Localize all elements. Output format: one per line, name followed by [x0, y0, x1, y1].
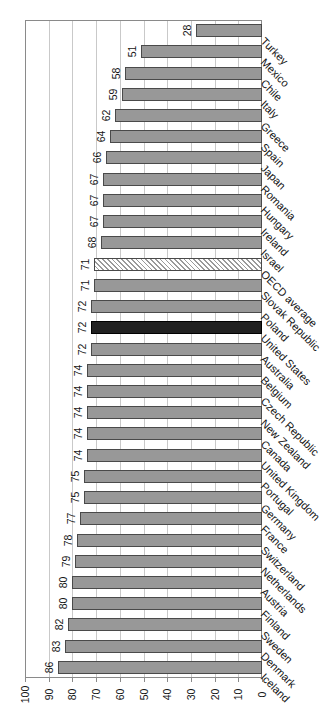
bar-sweden — [68, 618, 262, 631]
bar-turkey — [196, 24, 262, 37]
bar-value-israel: 68 — [86, 231, 99, 255]
value-axis-label-60: 60 — [114, 680, 127, 710]
chart-page: 010203040506070809010028Turkey51Mexico58… — [0, 0, 326, 724]
bar-new-zealand — [87, 406, 262, 419]
value-axis-label-10: 10 — [232, 680, 245, 710]
bar-czech-republic — [87, 385, 262, 398]
bar-switzerland — [77, 534, 262, 547]
bar-value-mexico: 51 — [126, 40, 139, 64]
bar-value-united-states: 72 — [76, 316, 89, 340]
bar-poland — [91, 300, 262, 313]
gridline-90 — [49, 21, 50, 677]
bar-germany — [84, 491, 262, 504]
bar-value-turkey: 28 — [181, 19, 194, 43]
value-axis-label-30: 30 — [185, 680, 198, 710]
bar-france — [80, 512, 262, 525]
value-axis-label-50: 50 — [138, 680, 151, 710]
bar-italy — [122, 88, 262, 101]
bar-ireland — [103, 215, 262, 228]
value-axis-label-100: 100 — [19, 680, 32, 710]
value-axis-label-40: 40 — [161, 680, 174, 710]
bar-value-france: 77 — [65, 507, 78, 531]
bar-value-iceland: 86 — [43, 656, 56, 680]
bar-oecd-average — [94, 258, 262, 271]
bar-denmark — [65, 640, 262, 653]
bar-hungary — [103, 194, 262, 207]
bar-portugal — [84, 470, 262, 483]
bar-united-kingdom — [87, 449, 262, 462]
bar-belgium — [87, 364, 262, 377]
bar-greece — [115, 109, 262, 122]
bar-spain — [110, 130, 262, 143]
bar-romania — [103, 173, 262, 186]
bar-iceland — [58, 661, 262, 674]
bar-austria — [72, 576, 262, 589]
bar-united-states — [91, 321, 262, 334]
bar-japan — [106, 151, 262, 164]
bar-chile — [125, 67, 262, 80]
bar-value-sweden: 82 — [53, 613, 66, 637]
bar-canada — [87, 427, 262, 440]
bar-mexico — [141, 45, 262, 58]
value-axis-label-70: 70 — [90, 680, 103, 710]
value-axis-label-20: 20 — [209, 680, 222, 710]
bar-value-japan: 66 — [91, 146, 104, 170]
bar-israel — [101, 236, 262, 249]
value-axis-label-90: 90 — [43, 680, 56, 710]
bar-finland — [72, 597, 262, 610]
bar-value-canada: 74 — [72, 422, 85, 446]
bar-australia — [91, 343, 262, 356]
bar-chart: 010203040506070809010028Turkey51Mexico58… — [0, 0, 326, 724]
bar-netherlands — [75, 555, 262, 568]
value-axis-label-80: 80 — [66, 680, 79, 710]
bar-slovak-republic — [94, 279, 262, 292]
